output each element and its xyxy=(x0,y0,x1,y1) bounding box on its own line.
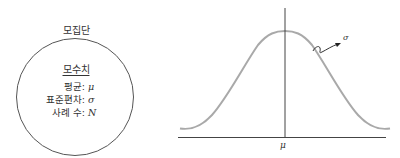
sigma-label: σ xyxy=(343,33,348,42)
normal-distribution-plot xyxy=(0,0,400,158)
mean-axis-label: μ xyxy=(280,140,286,150)
